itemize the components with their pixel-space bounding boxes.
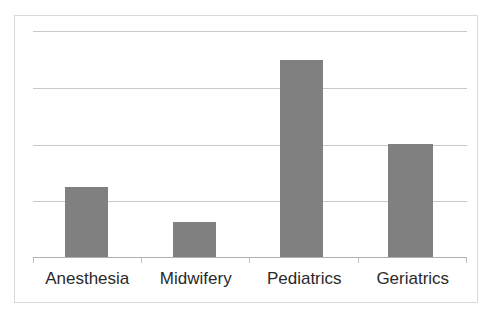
x-axis-tick-4 (466, 258, 467, 263)
x-axis-tick-3 (358, 258, 359, 263)
x-axis-category-labels: Anesthesia Midwifery Pediatrics Geriatri… (33, 264, 467, 294)
bar-geriatrics[interactable] (388, 144, 433, 257)
x-axis-tick-2 (249, 258, 250, 263)
bar-pediatrics[interactable] (280, 60, 323, 257)
x-axis-tick-1 (141, 258, 142, 263)
x-axis-label-midwifery: Midwifery (142, 264, 251, 294)
x-axis-label-anesthesia: Anesthesia (33, 264, 142, 294)
x-axis-line (33, 257, 467, 258)
x-axis-label-pediatrics: Pediatrics (250, 264, 359, 294)
clipped-top-text-row (0, 0, 491, 7)
x-axis-tick-0 (33, 258, 34, 263)
plot-area (33, 31, 467, 258)
x-axis-label-geriatrics: Geriatrics (359, 264, 468, 294)
chart-frame: Anesthesia Midwifery Pediatrics Geriatri… (14, 15, 478, 303)
bars-layer (33, 31, 467, 258)
bar-anesthesia[interactable] (65, 187, 108, 257)
bar-midwifery[interactable] (173, 222, 216, 257)
